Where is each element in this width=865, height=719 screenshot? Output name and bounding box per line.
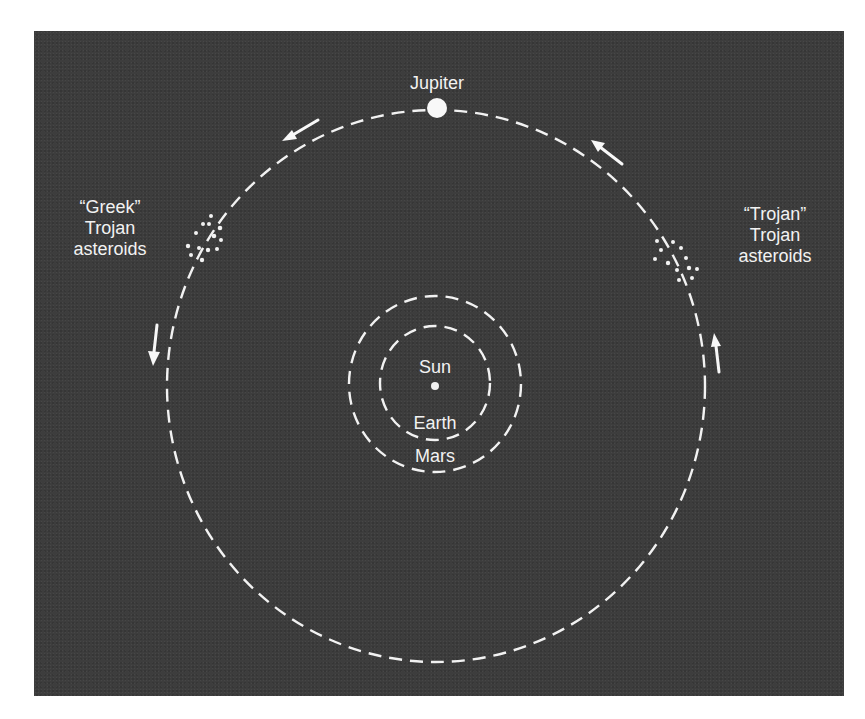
greek-asteroids-label: “Greek” Trojan asteroids <box>55 197 165 260</box>
earth-label: Earth <box>400 413 470 434</box>
arrow-top-left-icon <box>282 120 318 141</box>
jupiter-planet-icon <box>427 98 447 118</box>
arrow-left-down-icon <box>148 325 160 366</box>
arrow-right-up-icon <box>711 333 721 372</box>
jupiter-label: Jupiter <box>397 73 477 94</box>
greek-asteroid-cluster-icon <box>186 214 223 262</box>
arrow-top-right-icon <box>591 140 622 164</box>
sun-label: Sun <box>405 357 465 378</box>
mars-label: Mars <box>400 446 470 467</box>
motion-arrows <box>148 120 721 372</box>
trojan-asteroids-label: “Trojan” Trojan asteroids <box>715 204 835 267</box>
sun-dot-icon <box>431 382 439 390</box>
